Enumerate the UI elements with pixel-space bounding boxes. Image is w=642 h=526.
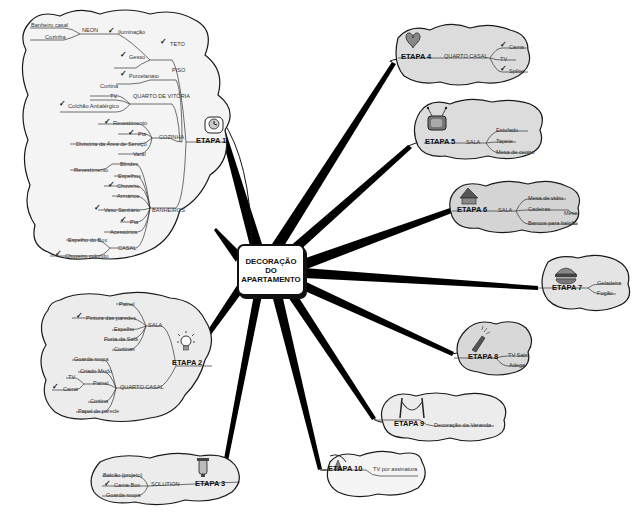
node-banheiro-casal[interactable]: Banheiro casal: [31, 22, 68, 29]
etapa-3-label[interactable]: ETAPA 3: [195, 479, 225, 488]
check-icon: ✓: [59, 100, 66, 108]
etapa-8-label[interactable]: ETAPA 8: [468, 352, 498, 361]
node-tapete[interactable]: Tapete: [496, 138, 513, 145]
node-cortina[interactable]: Cortina: [100, 83, 118, 90]
cloud-etapa2: [41, 292, 212, 421]
node-geladeira[interactable]: Geladeira: [597, 280, 621, 287]
etapa-7-label[interactable]: ETAPA 7: [552, 283, 582, 292]
central-topic[interactable]: DECORAÇÃO DO APARTAMENTO: [237, 244, 305, 296]
check-icon: ✓: [120, 51, 127, 59]
node-porta-sala[interactable]: Porta da Sala: [104, 336, 138, 343]
check-icon: ✓: [52, 383, 59, 391]
node-chuveiro-colorido[interactable]: Chuveiro colorido: [65, 253, 109, 260]
node-banheiros[interactable]: BANHEIROS: [152, 207, 185, 214]
node-divisoria[interactable]: Divisória da Área de Serviço: [76, 141, 147, 148]
node-painel-sala[interactable]: Painel: [119, 301, 135, 308]
node-painel-quarto[interactable]: Painel: [93, 380, 109, 387]
node-espelho-box[interactable]: Espelho do Box: [68, 237, 107, 244]
branch-etapa3: [222, 294, 262, 471]
node-cozinha-neon[interactable]: Cozinha: [45, 34, 66, 41]
node-cortina-e2[interactable]: Cortina: [90, 398, 108, 405]
node-criado-mudo[interactable]: Criado Mudo: [80, 368, 112, 375]
node-pia-banheiro[interactable]: Pia: [130, 219, 138, 226]
node-teto[interactable]: TETO: [170, 41, 185, 48]
clock-timer-icon: [205, 117, 223, 133]
node-guarda-roupa-e2[interactable]: Guarda roupa: [74, 356, 109, 363]
node-pintura-paredes[interactable]: Pintura das paredes: [86, 315, 136, 322]
mind-map-canvas: [0, 0, 642, 526]
check-icon: ✓: [108, 181, 115, 189]
node-blindex[interactable]: Blindex: [120, 161, 138, 168]
node-estofado[interactable]: Estofado: [496, 127, 518, 134]
node-armarios[interactable]: Armários: [117, 193, 139, 200]
etapa-4-label[interactable]: ETAPA 4: [401, 52, 431, 61]
central-topic-line1: DECORAÇÃO: [245, 257, 296, 266]
node-porcelanato[interactable]: Porcelanato: [129, 73, 159, 80]
node-spliter[interactable]: Spliter: [509, 68, 525, 75]
node-cadeiras[interactable]: Cadeiras: [528, 206, 550, 213]
node-cama-e4[interactable]: Cama: [509, 44, 524, 51]
node-piso[interactable]: PISO: [172, 67, 185, 74]
node-balcao-projeto[interactable]: Balcão (projeto): [103, 472, 143, 479]
check-icon: ✓: [108, 27, 115, 35]
node-colchao[interactable]: Colchão Antialérgico: [68, 103, 119, 110]
check-icon: ✓: [160, 38, 167, 46]
node-tv-e4[interactable]: TV: [500, 56, 507, 63]
node-decoracao-varanda[interactable]: Decoração da Varanda: [434, 422, 491, 429]
node-chuveiro[interactable]: Chuveiro: [117, 183, 139, 190]
node-solution[interactable]: SOLUTION: [151, 481, 180, 488]
check-icon: ✓: [120, 216, 127, 224]
node-sala-e5[interactable]: SALA: [466, 139, 480, 146]
node-quarto-casal-e4[interactable]: QUARTO CASAL: [444, 53, 488, 60]
node-sala-etapa2[interactable]: SALA: [148, 322, 162, 329]
node-bancos-balcao[interactable]: Bancos para balcão: [528, 220, 577, 227]
central-topic-line3: APARTAMENTO: [241, 275, 300, 284]
node-casal-banheiro[interactable]: CASAL: [118, 245, 136, 252]
etapa-9-label[interactable]: ETAPA 9: [394, 419, 424, 428]
node-papel-parede[interactable]: Papel de parede: [78, 408, 119, 415]
check-icon: ✓: [76, 312, 83, 320]
node-tv[interactable]: TV: [110, 93, 117, 100]
node-pia-cozinha[interactable]: Pia: [138, 131, 146, 138]
node-espelho[interactable]: Espelho: [114, 326, 134, 333]
node-mesa-centro[interactable]: Mesa de centro: [496, 149, 535, 156]
node-quarto-vitoria[interactable]: QUARTO DE VITÓRIA: [133, 93, 190, 100]
node-neon[interactable]: NEON: [82, 27, 98, 34]
node-cortinas[interactable]: Cortinas: [114, 346, 135, 353]
check-icon: ✓: [500, 41, 507, 49]
etapa-6-label[interactable]: ETAPA 6: [457, 205, 487, 214]
node-gesso[interactable]: Gesso: [129, 54, 145, 61]
node-tv-sala[interactable]: TV Sala: [508, 352, 528, 359]
node-quarto-casal-e2[interactable]: QUARTO CASAL: [120, 384, 164, 391]
check-icon: ✓: [104, 118, 111, 126]
node-tv-assinatura[interactable]: TV por assinatura: [373, 466, 417, 473]
branch-etapa6: [300, 208, 452, 270]
etapa-1-label[interactable]: ETAPA 1: [196, 136, 226, 145]
node-mesa[interactable]: Mesa: [564, 210, 578, 217]
node-fogao[interactable]: Fogão: [597, 290, 613, 297]
node-revestimento-banheiro[interactable]: Revestimento: [74, 167, 108, 174]
node-varal[interactable]: Varal: [133, 151, 146, 158]
node-revestimento-cozinha[interactable]: Revestimento: [113, 120, 147, 127]
node-guarda-roupa-e3[interactable]: Guarda roupa: [106, 492, 141, 499]
check-icon: ✓: [500, 65, 507, 73]
node-espelhos[interactable]: Espelhos: [118, 173, 141, 180]
node-cama-e2[interactable]: Cama: [63, 386, 78, 393]
etapa-10-label[interactable]: ETAPA 10: [328, 464, 362, 473]
node-iluminacao[interactable]: Iluminação: [118, 29, 145, 36]
branch-etapa7: [304, 268, 538, 290]
node-acessorios[interactable]: Acessórios: [110, 229, 137, 236]
node-tv-e2[interactable]: TV: [68, 374, 75, 381]
node-cozinha[interactable]: COZINHA: [159, 134, 184, 141]
node-sala-e6[interactable]: SALA: [498, 207, 512, 214]
node-mesa-vidro[interactable]: Mesa de vidro: [528, 195, 563, 202]
branch-etapa10: [272, 294, 322, 470]
check-icon: ✓: [55, 250, 62, 258]
etapa-5-label[interactable]: ETAPA 5: [425, 137, 455, 146]
check-icon: ✓: [104, 480, 111, 488]
central-topic-line2: DO: [265, 266, 277, 275]
etapa-2-label[interactable]: ETAPA 2: [172, 358, 202, 367]
node-adega[interactable]: Adega: [509, 362, 525, 369]
node-cama-box[interactable]: Cama Box: [114, 482, 140, 489]
node-vaso-sanitario[interactable]: Vaso Sanitário: [104, 207, 140, 214]
